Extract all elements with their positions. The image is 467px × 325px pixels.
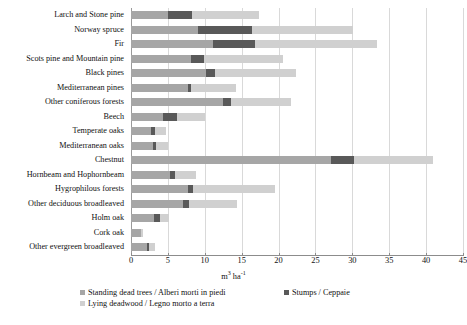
legend-row-2: Lying deadwood / Legno morto a terra bbox=[80, 299, 410, 310]
y-axis-label: Chestnut bbox=[95, 153, 124, 168]
bar-segment-lying bbox=[155, 127, 167, 135]
bar-segment-lying bbox=[204, 55, 283, 63]
x-tick-label-5: 5 bbox=[166, 256, 170, 265]
bar-row bbox=[131, 197, 463, 212]
y-axis-label: Mediterranean pines bbox=[57, 81, 124, 96]
bar-segment-standing bbox=[131, 229, 141, 237]
x-tick-label-30: 30 bbox=[348, 256, 356, 265]
bar-segment-standing bbox=[131, 243, 147, 251]
legend-label-lying: Lying deadwood / Legno morto a terra bbox=[88, 299, 214, 308]
bar-segment-stumps bbox=[331, 156, 354, 164]
bar-row bbox=[131, 66, 463, 81]
bar-segment-lying bbox=[141, 229, 142, 237]
stacked-bar bbox=[131, 200, 237, 208]
bar-segment-lying bbox=[354, 156, 433, 164]
bar-segment-lying bbox=[149, 243, 156, 251]
x-tick-mark-25 bbox=[315, 253, 316, 256]
legend-label-stumps: Stumps / Ceppaie bbox=[292, 288, 350, 297]
x-axis-title-unit-exponent: -1 bbox=[241, 270, 246, 276]
bar-segment-lying bbox=[177, 113, 205, 121]
bar-segment-standing bbox=[131, 98, 223, 106]
bar-segment-standing bbox=[131, 214, 154, 222]
stacked-bar bbox=[131, 142, 168, 150]
x-tick-mark-45 bbox=[463, 253, 464, 256]
y-axis-label: Mediterranean oaks bbox=[59, 139, 124, 154]
bar-row bbox=[131, 23, 463, 38]
bar-segment-stumps bbox=[168, 11, 192, 19]
bar-segment-lying bbox=[255, 40, 377, 48]
bar-segment-stumps bbox=[163, 113, 177, 121]
stacked-bar bbox=[131, 243, 155, 251]
stacked-bar bbox=[131, 171, 196, 179]
bar-row bbox=[131, 124, 463, 139]
bar-segment-lying bbox=[189, 200, 237, 208]
bar-segment-standing bbox=[131, 127, 151, 135]
stacked-bar bbox=[131, 11, 259, 19]
stacked-bar bbox=[131, 26, 353, 34]
y-axis-label: Holm oak bbox=[91, 211, 124, 226]
stacked-bar bbox=[131, 55, 283, 63]
bar-rows bbox=[131, 8, 463, 255]
x-tick-mark-5 bbox=[168, 253, 169, 256]
bar-row bbox=[131, 110, 463, 125]
bar-segment-standing bbox=[131, 11, 168, 19]
x-tick-label-35: 35 bbox=[385, 256, 393, 265]
y-axis-label: Scots pine and Mountain pine bbox=[26, 52, 124, 67]
gridline-45 bbox=[463, 8, 464, 255]
x-tick-mark-40 bbox=[426, 253, 427, 256]
bar-segment-standing bbox=[131, 113, 163, 121]
legend: Standing dead trees / Alberi morti in pi… bbox=[80, 288, 410, 310]
legend-swatch-stumps-icon bbox=[284, 290, 289, 295]
y-axis-label: Norway spruce bbox=[74, 23, 124, 38]
bar-segment-lying bbox=[252, 26, 353, 34]
y-axis-label: Cork oak bbox=[94, 226, 124, 241]
bar-segment-lying bbox=[231, 98, 291, 106]
bar-row bbox=[131, 37, 463, 52]
deadwood-stacked-bar-chart: Larch and Stone pineNorway spruceFirScot… bbox=[0, 0, 467, 325]
stacked-bar bbox=[131, 84, 237, 92]
bar-segment-standing bbox=[131, 40, 213, 48]
bar-segment-standing bbox=[131, 156, 331, 164]
y-axis-label: Larch and Stone pine bbox=[54, 8, 124, 23]
x-tick-label-20: 20 bbox=[274, 256, 282, 265]
y-axis-label: Other evergreen broadleaved bbox=[29, 240, 124, 255]
y-axis-label: Other deciduous broadleaved bbox=[28, 197, 124, 212]
bar-row bbox=[131, 52, 463, 67]
bar-segment-standing bbox=[131, 84, 188, 92]
bar-segment-lying bbox=[156, 142, 168, 150]
x-tick-mark-15 bbox=[242, 253, 243, 256]
x-tick-label-10: 10 bbox=[201, 256, 209, 265]
x-axis-title: m3 ha-1 bbox=[0, 270, 467, 281]
bar-segment-stumps bbox=[191, 55, 204, 63]
stacked-bar bbox=[131, 98, 291, 106]
bar-segment-lying bbox=[193, 185, 275, 193]
bar-segment-standing bbox=[131, 171, 170, 179]
x-tick-mark-0 bbox=[131, 253, 132, 256]
bar-segment-standing bbox=[131, 142, 153, 150]
bar-segment-lying bbox=[191, 84, 237, 92]
bar-segment-lying bbox=[175, 171, 196, 179]
y-axis-label: Hornbeam and Hophornbeam bbox=[27, 168, 124, 183]
x-tick-mark-35 bbox=[389, 253, 390, 256]
stacked-bar bbox=[131, 185, 275, 193]
y-axis-label: Temperate oaks bbox=[73, 124, 124, 139]
y-axis-label: Black pines bbox=[86, 66, 124, 81]
x-tick-label-40: 40 bbox=[422, 256, 430, 265]
legend-row-1: Standing dead trees / Alberi morti in pi… bbox=[80, 288, 410, 299]
x-tick-label-0: 0 bbox=[129, 256, 133, 265]
bar-segment-lying bbox=[192, 11, 258, 19]
bar-segment-lying bbox=[160, 214, 169, 222]
stacked-bar bbox=[131, 40, 377, 48]
bar-segment-stumps bbox=[198, 26, 252, 34]
stacked-bar bbox=[131, 156, 433, 164]
x-axis-title-unit: ha bbox=[231, 272, 241, 281]
y-axis-category-labels: Larch and Stone pineNorway spruceFirScot… bbox=[0, 8, 128, 255]
bar-row bbox=[131, 168, 463, 183]
stacked-bar bbox=[131, 127, 166, 135]
legend-item-stumps: Stumps / Ceppaie bbox=[284, 288, 350, 297]
x-tick-label-25: 25 bbox=[311, 256, 319, 265]
bar-row bbox=[131, 226, 463, 241]
stacked-bar bbox=[131, 214, 169, 222]
bar-row bbox=[131, 139, 463, 154]
bar-row bbox=[131, 95, 463, 110]
